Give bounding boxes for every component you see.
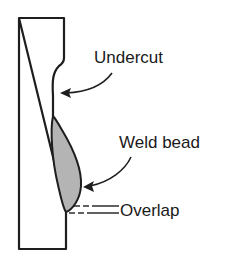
overlap-indicator-lines [69,206,119,213]
undercut-leader-line [66,73,112,93]
weld-bead-label: Weld bead [119,133,200,152]
weld-bead-arrowhead-icon [83,181,94,192]
overlap-label: Overlap [120,201,180,220]
weld-bead-shape [52,116,81,212]
weld-defect-diagram: Undercut Weld bead Overlap [0,0,233,262]
undercut-label: Undercut [94,48,163,67]
weld-bead-leader-line [90,157,131,186]
